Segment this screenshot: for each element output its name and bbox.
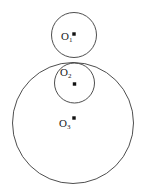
center-dot-o3 — [72, 116, 75, 119]
label-o3: O3 — [59, 118, 70, 129]
label-o2-subscript: 2 — [68, 72, 72, 80]
label-o1-subscript: 1 — [69, 36, 73, 44]
center-dot-o2 — [73, 82, 76, 85]
label-o1: O1 — [61, 31, 72, 42]
figure-canvas: O1 O2 O3 — [0, 0, 146, 196]
label-o3-letter: O — [59, 117, 67, 129]
label-o1-letter: O — [61, 30, 69, 42]
circle-o3-outline — [13, 63, 134, 184]
label-o2-letter: O — [60, 66, 68, 78]
label-o3-subscript: 3 — [67, 123, 71, 131]
center-dot-o1 — [72, 32, 75, 35]
circles-diagram — [0, 0, 146, 196]
label-o2: O2 — [60, 67, 71, 78]
